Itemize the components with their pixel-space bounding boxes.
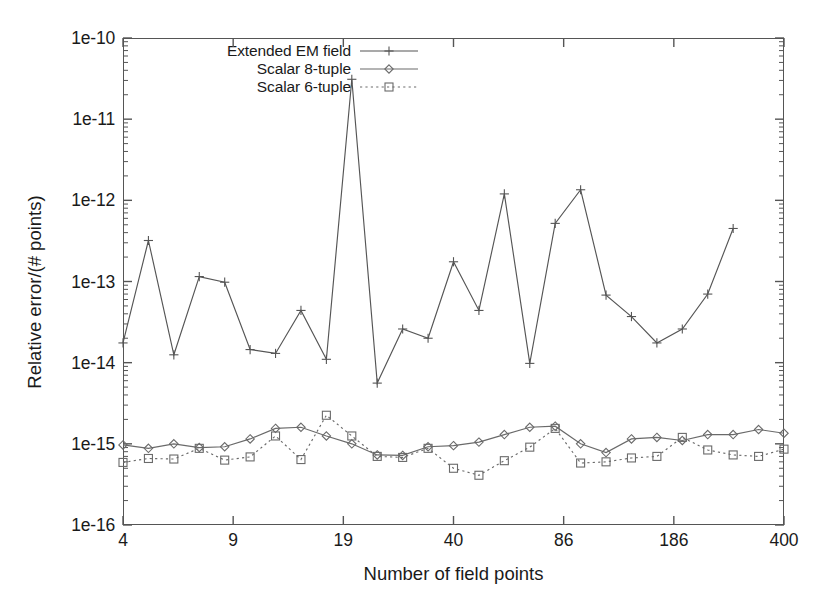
x-tick-label: 186 xyxy=(659,530,688,551)
x-tick-label: 86 xyxy=(554,530,573,551)
legend-key-plus-icon xyxy=(358,44,420,58)
legend-label: Extended EM field xyxy=(227,42,351,60)
figure: 1e-101e-111e-121e-131e-141e-151e-16 Rela… xyxy=(0,0,829,611)
y-tick-label: 1e-14 xyxy=(71,352,115,373)
y-tick-label: 1e-11 xyxy=(73,109,115,130)
y-axis-title: Relative error/(# points) xyxy=(24,57,46,527)
legend-key-diamond-icon xyxy=(358,62,420,76)
x-axis-title: Number of field points xyxy=(123,563,784,585)
x-tick-label: 19 xyxy=(334,530,353,551)
legend-label: Scalar 8-tuple xyxy=(257,60,351,78)
y-tick-label: 1e-13 xyxy=(71,271,115,292)
y-axis-tick-labels: 1e-101e-111e-121e-131e-141e-151e-16 xyxy=(0,0,115,611)
legend-label: Scalar 6-tuple xyxy=(257,78,351,96)
x-tick-label: 40 xyxy=(444,530,463,551)
x-tick-label: 9 xyxy=(228,530,238,551)
y-tick-label: 1e-12 xyxy=(71,190,115,211)
x-tick-label: 4 xyxy=(118,530,128,551)
y-tick-label: 1e-10 xyxy=(71,28,115,49)
legend: Extended EM fieldScalar 8-tupleScalar 6-… xyxy=(160,42,420,96)
legend-item-0: Extended EM field xyxy=(160,42,420,59)
y-tick-label: 1e-16 xyxy=(71,515,115,536)
legend-key-square-icon xyxy=(358,80,420,94)
y-tick-label: 1e-15 xyxy=(71,433,115,454)
legend-item-1: Scalar 8-tuple xyxy=(160,60,420,77)
x-tick-label: 400 xyxy=(769,530,798,551)
plot-area xyxy=(123,38,784,525)
legend-item-2: Scalar 6-tuple xyxy=(160,78,420,95)
